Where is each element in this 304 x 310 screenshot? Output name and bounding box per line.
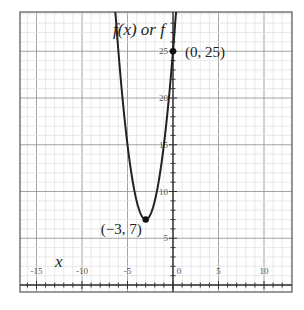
x-tick-label: 5: [216, 266, 221, 276]
y-tick-label: 25: [159, 46, 169, 56]
data-point: [143, 216, 149, 222]
x-tick-label: -15: [31, 266, 43, 276]
x-tick-label: 0: [177, 266, 182, 276]
x-tick-label: 10: [260, 266, 270, 276]
tick-labels: -15-10-50510510152025: [31, 46, 270, 276]
grid: [20, 12, 292, 292]
x-tick-label: -10: [76, 266, 88, 276]
point-label: (−3, 7): [101, 221, 142, 238]
plot-frame: [20, 12, 292, 292]
y-tick-label: 10: [159, 187, 169, 197]
y-tick-label: 20: [159, 93, 169, 103]
x-axis-title: x: [54, 252, 63, 271]
axes: [20, 12, 292, 292]
point-label: (0, 25): [185, 44, 225, 61]
data-point: [170, 48, 176, 54]
function-graph: -15-10-50510510152025 (0, 25)(−3, 7) f(x…: [0, 0, 304, 310]
x-tick-label: -5: [124, 266, 132, 276]
y-axis-title: f(x) or f: [113, 20, 167, 39]
y-tick-label: 5: [164, 233, 169, 243]
